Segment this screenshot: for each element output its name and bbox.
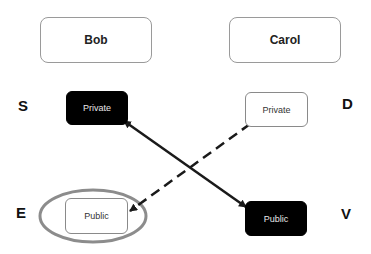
v-public-label: Public bbox=[264, 214, 289, 224]
s-private-key-box: Private bbox=[66, 91, 128, 125]
e-public-label: Public bbox=[84, 211, 109, 221]
v-public-key-box: Public bbox=[245, 201, 307, 236]
e-public-key-box: Public bbox=[65, 198, 128, 234]
d-private-label: Private bbox=[262, 105, 290, 115]
s-private-label: Private bbox=[83, 103, 111, 113]
d-private-key-box: Private bbox=[245, 92, 308, 127]
diagram-overlay bbox=[0, 0, 371, 254]
solid-double-arrow bbox=[124, 121, 246, 207]
